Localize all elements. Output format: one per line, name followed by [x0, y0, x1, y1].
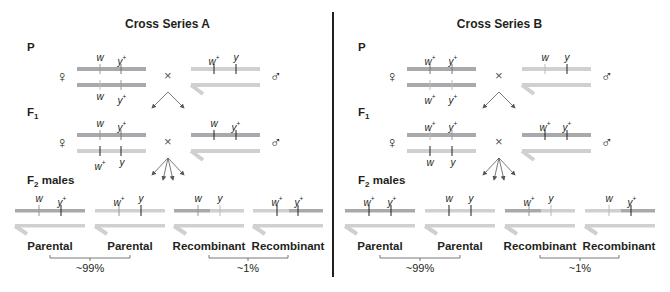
frequency-label: ~99%	[60, 262, 120, 274]
offspring-class-label: Recombinant	[169, 240, 249, 252]
allele-label: y+	[112, 53, 132, 67]
allele-label: w	[439, 194, 459, 204]
allele-label: w	[90, 92, 110, 102]
cross-icon: ×	[495, 134, 503, 149]
offspring-class-label: Parental	[10, 240, 90, 252]
bracket-parental	[50, 255, 130, 261]
offspring-class-label: Parental	[420, 240, 500, 252]
offspring-class-label: Parental	[90, 240, 170, 252]
allele-label: w	[204, 119, 224, 129]
offspring-class-label: Recombinant	[248, 240, 328, 252]
allele-label: y+	[52, 194, 72, 208]
generation-f1-label: F1	[358, 106, 369, 121]
allele-label: w	[188, 194, 208, 204]
female-symbol-icon: ♀	[56, 69, 68, 85]
cross-icon: ×	[164, 68, 172, 83]
allele-label: w+	[420, 53, 440, 67]
allele-label: y+	[112, 119, 132, 133]
allele-label: y+	[443, 53, 463, 67]
allele-label: y+	[382, 194, 402, 208]
generation-p-label: P	[358, 41, 366, 53]
allele-label: w+	[420, 92, 440, 106]
allele-label: w	[90, 53, 110, 63]
allele-label: y	[557, 53, 577, 63]
generation-p-label: P	[27, 41, 35, 53]
allele-label: y	[210, 194, 230, 204]
allele-label: y+	[443, 119, 463, 133]
allele-label: w+	[267, 194, 287, 208]
frequency-label: ~1%	[218, 262, 278, 274]
frequency-label: ~1%	[550, 262, 610, 274]
allele-label: y	[541, 194, 561, 204]
cross-series-b: Cross Series B P F1 F2 males w+ y+ w+ y+…	[335, 0, 670, 292]
allele-label: w+	[109, 194, 129, 208]
cross-icon: ×	[164, 134, 172, 149]
offspring-class-label: Recombinant	[579, 240, 659, 252]
cross-icon: ×	[495, 68, 503, 83]
allele-label: w	[29, 194, 49, 204]
allele-label: w+	[535, 119, 555, 133]
allele-label: w	[599, 194, 619, 204]
bracket-recombinant	[209, 255, 288, 261]
cross-series-a: Cross Series A P F1 F2 males w y+ w y+ w…	[0, 0, 335, 292]
generation-f1-label: F1	[27, 106, 38, 121]
allele-label: y+	[622, 194, 642, 208]
allele-label: y+	[289, 194, 309, 208]
offspring-class-label: Recombinant	[500, 240, 580, 252]
allele-label: w	[420, 158, 440, 168]
allele-label: y+	[443, 92, 463, 106]
allele-label: y	[131, 194, 151, 204]
allele-label: y+	[226, 119, 246, 133]
p-female-x-bottom	[77, 83, 146, 87]
allele-label: y+	[557, 119, 577, 133]
allele-label: y	[112, 158, 132, 168]
male-symbol-icon: ♂	[270, 69, 282, 85]
allele-label: w	[535, 53, 555, 63]
male-symbol-icon: ♂	[270, 135, 282, 151]
generation-f2-label: F2 males	[358, 174, 405, 189]
generation-f2-label: F2 males	[27, 174, 74, 189]
offspring-class-label: Parental	[340, 240, 420, 252]
allele-label: w+	[204, 53, 224, 67]
female-symbol-icon: ♀	[56, 135, 68, 151]
allele-label: y	[226, 53, 246, 63]
female-symbol-icon: ♀	[386, 69, 398, 85]
allele-label: y	[461, 194, 481, 204]
frequency-label: ~99%	[390, 262, 450, 274]
allele-label: w+	[519, 194, 539, 208]
series-title: Cross Series B	[332, 17, 667, 31]
allele-label: y+	[112, 92, 132, 106]
male-symbol-icon: ♂	[601, 135, 613, 151]
allele-label: w	[90, 119, 110, 129]
series-title: Cross Series A	[0, 17, 335, 31]
female-symbol-icon: ♀	[386, 135, 398, 151]
p-female-x-top	[77, 67, 146, 71]
allele-label: w+	[420, 119, 440, 133]
allele-label: w+	[90, 158, 110, 172]
male-symbol-icon: ♂	[601, 69, 613, 85]
allele-label: w+	[359, 194, 379, 208]
allele-label: y	[443, 158, 463, 168]
